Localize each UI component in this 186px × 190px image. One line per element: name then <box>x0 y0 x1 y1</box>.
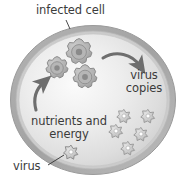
label-nutrients-and-energy: nutrients andenergy <box>26 115 112 141</box>
label-virus-copies-line1: virus <box>130 68 158 82</box>
label-nutrients-line2: energy <box>49 127 88 141</box>
label-virus: virus <box>13 160 41 173</box>
virus-replication-diagram: infected cell viruscopies nutrients ande… <box>0 0 186 190</box>
label-virus-copies: viruscopies <box>118 69 170 95</box>
leader-line-infected-cell <box>66 20 70 29</box>
label-nutrients-line1: nutrients and <box>31 114 107 128</box>
label-virus-copies-line2: copies <box>126 81 162 95</box>
label-infected-cell: infected cell <box>36 4 105 17</box>
